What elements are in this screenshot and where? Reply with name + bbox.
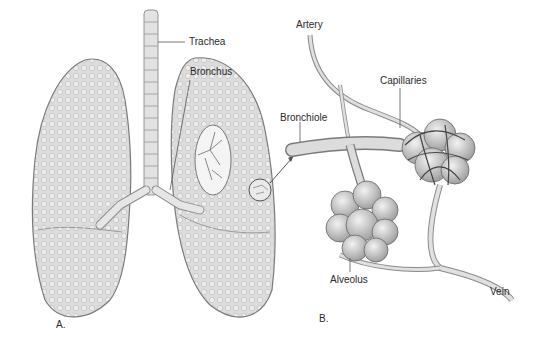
diagram-artwork [0, 0, 535, 347]
alveolus-label: Alveolus [330, 275, 368, 285]
capillaries-label: Capillaries [380, 76, 427, 86]
panel-a-label: A. [56, 320, 65, 330]
vein-label: Vein [490, 287, 509, 297]
bronchiole-label: Bronchiole [280, 113, 327, 123]
right-lung [171, 58, 294, 317]
trachea-label: Trachea [189, 37, 225, 47]
capillary-alveolar-cluster [400, 88, 475, 185]
artery-label: Artery [296, 20, 323, 30]
lung-anatomy-diagram: Trachea Bronchus A. Artery Capillaries B… [0, 0, 535, 347]
panel-b-label: B. [319, 314, 328, 324]
bronchus-label: Bronchus [190, 67, 232, 77]
alveolus-cluster [326, 181, 398, 272]
left-lung [32, 59, 130, 317]
